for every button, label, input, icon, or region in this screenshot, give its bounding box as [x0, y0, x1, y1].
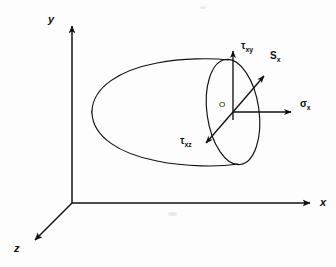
sigma-x-subscript: x — [307, 104, 311, 111]
axis-label-y-text: y — [48, 13, 54, 25]
cone-body — [91, 59, 238, 166]
axis-label-y: y — [48, 14, 54, 25]
s-x-symbol: S — [270, 50, 277, 61]
cone-lower-edge — [92, 113, 238, 166]
scan-speck — [200, 6, 206, 9]
origin-label-text: O — [219, 100, 225, 109]
stress-diagram-svg — [0, 0, 336, 267]
s-x-subscript: x — [277, 56, 281, 63]
vector-s-x — [233, 76, 264, 112]
axis-label-z-text: z — [14, 242, 20, 254]
tau-xy-subscript: xy — [245, 46, 252, 53]
tau-xz-subscript: xz — [184, 141, 191, 148]
axis-label-x: x — [320, 197, 326, 208]
axis-label-x-text: x — [320, 196, 326, 208]
axis-label-z: z — [14, 243, 20, 254]
sigma-x-symbol: σ — [300, 98, 307, 109]
scan-speck — [168, 212, 177, 216]
vector-label-tau-xy: τxy — [241, 41, 253, 54]
axis-z-line — [35, 203, 72, 240]
cone-nose — [91, 111, 92, 113]
vector-label-sigma-x: σx — [300, 99, 311, 112]
coordinate-axes — [35, 26, 310, 240]
figure-canvas: y x z O τxy Sx σx τxz — [0, 0, 336, 267]
vector-label-s-x: Sx — [270, 51, 280, 64]
origin-label: O — [219, 101, 225, 109]
vector-label-tau-xz: τxz — [180, 136, 191, 149]
stress-vectors — [206, 51, 291, 143]
